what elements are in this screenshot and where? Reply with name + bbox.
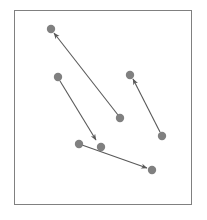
plot-frame [15, 11, 192, 205]
data-point-p4 [116, 114, 124, 122]
arrow-a4 [82, 145, 147, 168]
arrows-layer [54, 33, 160, 168]
data-point-p2 [54, 73, 62, 81]
data-point-p8 [148, 166, 156, 174]
data-point-p3 [126, 71, 134, 79]
data-point-p1 [47, 25, 55, 33]
figure-root [0, 0, 207, 220]
data-point-p6 [75, 140, 83, 148]
arrow-a1 [54, 33, 118, 115]
data-point-p5 [158, 132, 166, 140]
data-point-p7 [97, 143, 105, 151]
arrow-a3 [133, 79, 160, 132]
arrow-a2 [60, 81, 96, 140]
scatter-plot-canvas [0, 0, 207, 220]
